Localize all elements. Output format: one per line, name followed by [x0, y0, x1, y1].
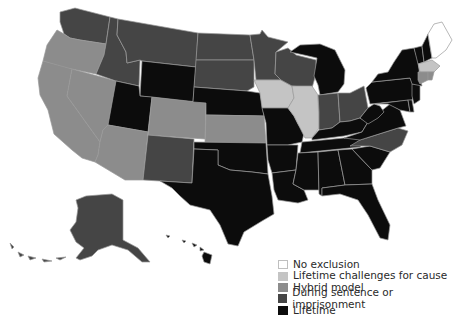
legend-swatch-during-sentence: [278, 294, 287, 303]
state-nd: [196, 33, 254, 60]
state-sd: [194, 60, 254, 91]
state-ak: [10, 194, 150, 262]
state-mt: [117, 19, 198, 67]
state-hi: [166, 235, 212, 264]
state-fl: [322, 184, 390, 240]
state-wy: [140, 61, 196, 102]
legend-swatch-lifetime: [278, 306, 288, 315]
legend-swatch-hybrid-model: [278, 283, 288, 292]
legend-swatch-no-exclusion: [278, 260, 288, 269]
state-az: [95, 125, 148, 180]
state-ar: [267, 145, 298, 173]
map-legend: No exclusion Lifetime challenges for cau…: [278, 259, 454, 316]
state-co: [148, 97, 206, 139]
legend-item-during-sentence: During sentence or imprisonment: [278, 293, 454, 304]
state-ri: [428, 72, 434, 80]
state-ct: [418, 72, 428, 84]
state-nm: [143, 135, 194, 183]
state-nj: [412, 84, 420, 104]
legend-swatch-lifetime-challenges: [278, 272, 288, 281]
state-me: [428, 22, 452, 58]
legend-label: Lifetime: [293, 305, 336, 316]
state-ks: [205, 115, 266, 143]
